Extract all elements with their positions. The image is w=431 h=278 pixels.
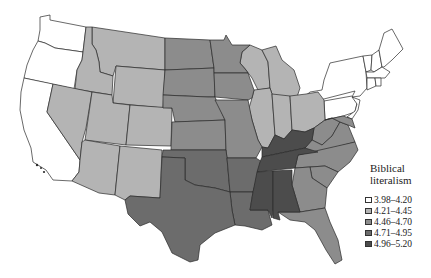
state-ne bbox=[163, 95, 225, 122]
legend-label-3: 4.46–4.70 bbox=[374, 217, 412, 227]
state-ks bbox=[171, 120, 226, 150]
legend-swatch-3 bbox=[365, 219, 372, 225]
map-legend: Biblical literalism 3.98–4.20 4.21–4.45 … bbox=[365, 162, 431, 249]
legend-title: Biblical literalism bbox=[370, 162, 431, 186]
state-fl bbox=[278, 208, 342, 264]
legend-label-5: 4.96–5.20 bbox=[374, 239, 412, 249]
legend-title-line1: Biblical bbox=[370, 162, 431, 174]
legend-swatch-4 bbox=[365, 230, 372, 236]
state-me bbox=[379, 29, 403, 67]
legend-title-line2: literalism bbox=[370, 174, 431, 186]
state-ct bbox=[367, 78, 376, 90]
legend-label-2: 4.21–4.45 bbox=[374, 206, 412, 216]
state-sd bbox=[163, 68, 215, 97]
legend-swatch-2 bbox=[365, 208, 372, 214]
legend-item-4: 4.71–4.95 bbox=[365, 227, 431, 238]
legend-item-1: 3.98–4.20 bbox=[365, 194, 431, 205]
state-ri bbox=[375, 78, 381, 86]
legend-item-3: 4.46–4.70 bbox=[365, 216, 431, 227]
state-nm bbox=[115, 146, 162, 200]
legend-label-4: 4.71–4.95 bbox=[374, 228, 412, 238]
state-co bbox=[126, 105, 172, 146]
state-ia bbox=[214, 73, 254, 100]
legend-swatch-1 bbox=[365, 197, 372, 203]
state-wy bbox=[113, 66, 165, 108]
legend-swatch-5 bbox=[365, 241, 372, 247]
legend-item-2: 4.21–4.45 bbox=[365, 205, 431, 216]
state-nd bbox=[165, 38, 214, 70]
legend-item-5: 4.96–5.20 bbox=[365, 238, 431, 249]
state-in bbox=[272, 94, 292, 139]
legend-label-1: 3.98–4.20 bbox=[374, 195, 412, 205]
